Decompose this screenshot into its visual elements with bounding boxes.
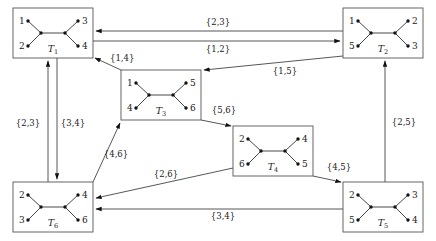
leaf-label-tl: 1 <box>349 16 355 26</box>
tree-vertex <box>184 81 187 84</box>
tree-vertex <box>356 44 359 47</box>
tree-vertex <box>296 162 299 165</box>
tree-vertex <box>369 31 372 34</box>
tree-vertex <box>406 193 409 196</box>
tree-vertex <box>246 162 249 165</box>
tree-vertex <box>76 19 79 22</box>
edge-label-t4-t5: {4,5} <box>327 162 351 172</box>
leaf-label-bl: 5 <box>349 41 355 51</box>
tree-vertex <box>393 205 396 208</box>
tree-vertex <box>356 218 359 221</box>
tree-vertex <box>134 106 137 109</box>
leaf-label-tr: 4 <box>302 134 308 144</box>
edge-label-t1-t2: {1,2} <box>206 44 230 54</box>
leaf-label-tl: 2 <box>349 190 355 200</box>
edge-label-t2-t3: {1,5} <box>273 66 297 76</box>
tree-vertex <box>147 93 150 96</box>
edge-label-t1-t6: {3,4} <box>61 118 85 128</box>
tree-vertex <box>356 193 359 196</box>
tree-node-t4: 2645T4 <box>233 126 313 176</box>
leaf-label-tl: 2 <box>19 190 25 200</box>
leaf-label-bl: 4 <box>127 103 133 113</box>
tree-vertex <box>393 31 396 34</box>
leaf-label-br: 6 <box>82 215 88 225</box>
leaf-label-br: 4 <box>82 41 88 51</box>
tree-node-t1: 1234T1 <box>13 8 93 58</box>
leaf-label-br: 4 <box>412 215 418 225</box>
tree-vertex <box>63 205 66 208</box>
edge-label-t2-t1: {2,3} <box>206 17 230 27</box>
tree-vertex <box>76 193 79 196</box>
tree-vertex <box>63 31 66 34</box>
edge-label-t4-t6: {2,6} <box>154 169 178 179</box>
tree-vertex <box>26 44 29 47</box>
leaf-label-br: 3 <box>412 41 418 51</box>
leaf-label-tr: 4 <box>82 190 88 200</box>
tree-vertex <box>259 149 262 152</box>
leaf-label-tl: 1 <box>19 16 25 26</box>
edges <box>48 31 385 209</box>
tree-node-t3: 1456T3 <box>121 70 201 120</box>
leaf-label-bl: 2 <box>19 41 25 51</box>
edge-label-t3-t1: {1,4} <box>110 53 134 63</box>
leaf-label-bl: 5 <box>349 215 355 225</box>
tree-vertex <box>134 81 137 84</box>
tree-vertex <box>369 205 372 208</box>
edge-t3-t4 <box>201 120 231 126</box>
tree-vertex <box>76 44 79 47</box>
leaf-label-bl: 3 <box>19 215 25 225</box>
tree-vertex <box>406 44 409 47</box>
tree-vertex <box>406 218 409 221</box>
leaf-label-bl: 6 <box>239 159 245 169</box>
leaf-label-br: 6 <box>190 103 196 113</box>
leaf-label-tl: 2 <box>239 134 245 144</box>
tree-vertex <box>26 193 29 196</box>
leaf-label-tr: 5 <box>190 78 196 88</box>
edge-label-t5-t6: {3,4} <box>211 211 235 221</box>
tree-vertex <box>246 137 249 140</box>
leaf-label-tl: 1 <box>127 78 133 88</box>
tree-vertex <box>26 19 29 22</box>
leaf-label-tr: 3 <box>82 16 88 26</box>
diagram-canvas: {2,3} {1,2} {1,4} {1,5} {2,3} {3,4} {5,6… <box>0 0 436 241</box>
tree-vertex <box>76 218 79 221</box>
tree-vertex <box>26 218 29 221</box>
tree-vertex <box>356 19 359 22</box>
edge-t4-t5 <box>313 176 341 182</box>
leaf-label-br: 5 <box>302 159 308 169</box>
edge-label-t6-t1: {2,3} <box>16 118 40 128</box>
edge-label-t3-t4: {5,6} <box>212 105 236 115</box>
tree-node-t6: 2346T6 <box>13 182 93 232</box>
tree-vertex <box>296 137 299 140</box>
edge-label-t6-t3: {4,6} <box>104 149 128 159</box>
tree-node-t2: 1523T2 <box>343 8 423 58</box>
tree-vertex <box>406 19 409 22</box>
leaf-label-tr: 3 <box>412 190 418 200</box>
tree-vertex <box>39 205 42 208</box>
edge-label-t5-t2: {2,5} <box>392 117 416 127</box>
leaf-label-tr: 2 <box>412 16 418 26</box>
tree-vertex <box>39 31 42 34</box>
tree-vertex <box>171 93 174 96</box>
tree-vertex <box>184 106 187 109</box>
tree-vertex <box>283 149 286 152</box>
tree-node-t5: 2534T5 <box>343 182 423 232</box>
